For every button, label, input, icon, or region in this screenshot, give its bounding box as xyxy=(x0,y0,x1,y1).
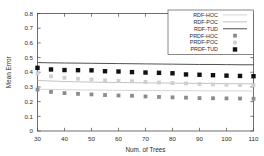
data-point xyxy=(211,73,215,77)
x-tick-label: 80 xyxy=(169,135,176,142)
data-point xyxy=(103,93,107,97)
data-point xyxy=(170,71,174,75)
data-point xyxy=(224,73,228,77)
chart-legend: RDF-HOCRDF-POCRDF-TUDPRDF-HOCPRDF-POCPRD… xyxy=(168,10,254,54)
data-point xyxy=(225,96,229,100)
chart-figure: 30405060708090100110 00.10.20.30.40.50.6… xyxy=(0,0,264,156)
data-point xyxy=(49,67,53,71)
series-line xyxy=(38,89,254,91)
data-point xyxy=(184,96,188,100)
data-point xyxy=(76,68,80,72)
y-tick-label: 0 xyxy=(30,127,34,134)
data-point xyxy=(211,83,215,87)
data-point xyxy=(252,97,256,101)
data-point xyxy=(130,94,134,98)
x-tick-label: 90 xyxy=(196,135,203,142)
data-point xyxy=(36,72,40,76)
data-point xyxy=(117,94,121,98)
x-tick-label: 50 xyxy=(88,135,95,142)
data-point xyxy=(90,93,94,97)
data-point xyxy=(157,95,161,99)
data-point xyxy=(36,88,40,92)
y-tick-label: 0.7 xyxy=(24,24,33,31)
data-point xyxy=(225,83,229,87)
x-axis-tick-labels: 30405060708090100110 xyxy=(34,135,259,142)
y-tick-label: 0.4 xyxy=(24,68,33,75)
data-point xyxy=(130,79,134,83)
legend-swatch-marker xyxy=(233,34,237,38)
data-point xyxy=(198,82,202,86)
data-point xyxy=(184,72,188,76)
data-point xyxy=(184,82,188,86)
x-tick-label: 30 xyxy=(34,135,41,142)
data-point xyxy=(89,68,93,72)
x-axis-title: Num. of Trees xyxy=(125,146,165,153)
data-point xyxy=(144,95,148,99)
legend-label: RDF-POC xyxy=(193,19,218,25)
legend-label: RDF-HOC xyxy=(193,12,218,18)
series-line xyxy=(38,63,254,65)
data-point xyxy=(171,81,175,85)
legend-swatch-marker xyxy=(233,47,237,51)
legend-label: PRDF-HOC xyxy=(190,33,219,39)
data-point xyxy=(130,70,134,74)
y-tick-label: 0.3 xyxy=(24,83,33,90)
data-point xyxy=(62,68,66,72)
y-tick-label: 0.1 xyxy=(24,113,33,120)
data-point xyxy=(198,96,202,100)
data-point xyxy=(63,91,67,95)
data-point xyxy=(171,95,175,99)
series-rdf-hoc xyxy=(38,89,254,91)
data-point xyxy=(157,81,161,85)
data-point xyxy=(238,74,242,78)
data-series xyxy=(35,63,255,101)
data-point xyxy=(103,78,107,82)
data-point xyxy=(76,77,80,81)
y-tick-label: 0.2 xyxy=(24,98,33,105)
x-tick-label: 70 xyxy=(142,135,149,142)
y-tick-label: 0.8 xyxy=(24,10,33,17)
data-point xyxy=(197,73,201,77)
plot-canvas: 30405060708090100110 00.10.20.30.40.50.6… xyxy=(0,0,264,156)
data-point xyxy=(90,78,94,82)
data-point xyxy=(116,69,120,73)
data-point xyxy=(251,74,255,78)
data-point xyxy=(143,70,147,74)
data-point xyxy=(157,71,161,75)
legend-swatch-marker xyxy=(233,41,237,45)
data-point xyxy=(35,66,39,70)
data-point xyxy=(252,83,256,87)
legend-label: RDF-TUD xyxy=(194,26,218,32)
data-point xyxy=(211,96,215,100)
data-point xyxy=(63,76,67,80)
data-point xyxy=(49,90,53,94)
y-axis-title: Mean Error xyxy=(5,55,12,88)
x-tick-label: 100 xyxy=(221,135,232,142)
data-point xyxy=(103,69,107,73)
y-axis-tick-labels: 00.10.20.30.40.50.60.70.8 xyxy=(24,10,33,135)
series-prdf-tud xyxy=(35,66,255,79)
series-rdf-tud xyxy=(38,63,254,65)
data-point xyxy=(238,83,242,87)
data-point xyxy=(49,74,53,78)
x-tick-label: 110 xyxy=(249,135,259,142)
x-tick-label: 40 xyxy=(61,135,68,142)
data-point xyxy=(117,79,121,83)
data-point xyxy=(76,92,80,96)
data-point xyxy=(144,80,148,84)
legend-label: PRDF-POC xyxy=(190,39,218,45)
data-point xyxy=(238,97,242,101)
legend-label: PRDF-TUD xyxy=(190,46,218,52)
y-tick-label: 0.6 xyxy=(24,39,33,46)
x-tick-label: 60 xyxy=(115,135,122,142)
y-tick-label: 0.5 xyxy=(24,54,33,61)
